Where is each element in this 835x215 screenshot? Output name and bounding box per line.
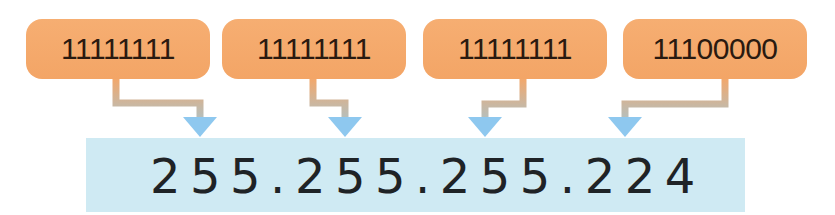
octet-box-4: 11100000 xyxy=(623,19,807,79)
octet-box-2: 11111111 xyxy=(222,19,406,79)
arrow-down-icon xyxy=(468,117,502,137)
connector-1 xyxy=(116,79,217,137)
arrow-down-icon xyxy=(608,117,642,137)
connector-3 xyxy=(468,79,523,137)
octet-binary-1: 11111111 xyxy=(61,32,175,66)
octet-binary-3: 11111111 xyxy=(458,32,572,66)
connector-2 xyxy=(313,79,362,137)
arrow-down-icon xyxy=(328,117,362,137)
octet-binary-4: 11100000 xyxy=(652,32,777,66)
octet-box-1: 11111111 xyxy=(26,19,210,79)
arrow-down-icon xyxy=(183,117,217,137)
connector-4 xyxy=(608,79,725,137)
dotted-decimal-result: 255.255.255.224 xyxy=(150,146,705,206)
octet-binary-2: 11111111 xyxy=(257,32,371,66)
octet-box-3: 11111111 xyxy=(423,19,607,79)
